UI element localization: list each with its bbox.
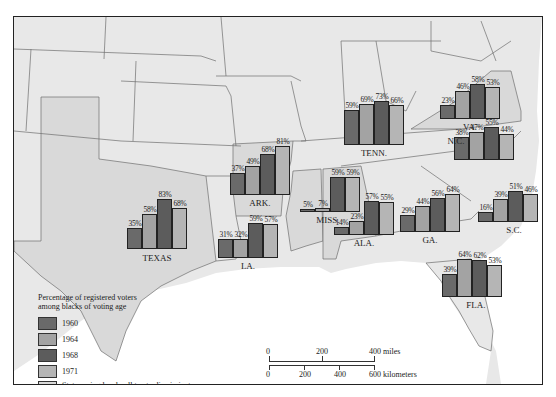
swatch-1964 (38, 333, 57, 346)
bar-1964 (245, 166, 260, 195)
bar-1960 (440, 105, 455, 119)
bar-chart-ala: 14%23%57%55% (334, 175, 394, 235)
bar-chart-tenn: 59%69%73%66% (344, 85, 404, 145)
swatch-1971 (38, 365, 57, 378)
bar-1971 (485, 87, 500, 119)
bar-value-label: 83% (154, 190, 176, 199)
bar-value-label: 57% (260, 215, 282, 224)
bar-1960 (478, 212, 493, 222)
bar-chart-la: 31%32%59%57% (218, 198, 278, 258)
bar-1960 (230, 173, 245, 195)
bar-1964 (415, 206, 430, 232)
bar-1968 (472, 260, 487, 297)
bar-1964 (349, 221, 364, 235)
swatch-1968 (38, 349, 57, 362)
bar-1964 (315, 208, 330, 212)
swatch-1960 (38, 317, 57, 330)
bar-value-label: 55% (376, 193, 398, 202)
bar-1960 (127, 228, 142, 249)
bar-chart-va: 23%46%58%53% (440, 59, 500, 119)
legend-title: Percentage of registered voters among bl… (38, 293, 194, 311)
state-label: ALA. (334, 238, 394, 248)
bar-1971 (523, 194, 538, 222)
state-label: VA. (440, 122, 500, 132)
bar-1960 (442, 274, 457, 297)
bar-1964 (233, 239, 248, 258)
bar-1971 (263, 224, 278, 258)
bar-value-label: 68% (169, 199, 191, 208)
state-label: TEXAS (127, 253, 187, 263)
swatch-poll-tax (38, 381, 57, 385)
bar-value-label: 53% (484, 256, 506, 265)
map-frame: 35%58%83%68%TEXAS37%49%68%81%ARK.31%32%5… (13, 16, 543, 385)
legend-item-1964: 1964 (38, 331, 194, 347)
bar-value-label: 66% (386, 96, 408, 105)
bar-1968 (364, 201, 379, 235)
miles-scale-line (269, 361, 375, 362)
bar-1960 (400, 215, 415, 232)
bar-1964 (359, 104, 374, 145)
bar-chart-fla: 39%64%62%53% (442, 237, 502, 297)
legend-item-poll-tax: States using local poll tax to discrimin… (38, 381, 194, 385)
bar-1960 (300, 209, 315, 212)
bar-1968 (508, 191, 523, 222)
bar-1960 (344, 110, 359, 145)
bar-1964 (493, 199, 508, 222)
bar-1971 (445, 194, 460, 232)
bar-chart-ark: 37%49%68%81% (230, 135, 290, 195)
bar-1960 (218, 239, 233, 258)
bar-1968 (374, 101, 389, 145)
bar-chart-texas: 35%58%83%68% (127, 189, 187, 249)
state-label: N.C. (426, 136, 486, 146)
bar-1971 (389, 105, 404, 145)
bar-value-label: 46% (520, 185, 542, 194)
bar-1960 (334, 227, 349, 235)
state-label: LA. (218, 261, 278, 271)
bar-1968 (260, 154, 275, 195)
bar-1971 (379, 202, 394, 235)
state-label: TENN. (344, 148, 404, 158)
state-label: FLA. (446, 300, 506, 310)
bar-value-label: 64% (442, 185, 464, 194)
bar-chart-sc: 16%39%51%46% (478, 162, 538, 222)
legend-item-1971: 1971 (38, 363, 194, 379)
state-label: S.C. (484, 225, 543, 235)
bar-1964 (142, 214, 157, 249)
legend-item-1968: 1968 (38, 347, 194, 363)
bar-value-label: 53% (482, 78, 504, 87)
bar-1968 (470, 84, 485, 119)
bar-1968 (248, 223, 263, 258)
legend-item-1960: 1960 (38, 315, 194, 331)
bar-1964 (455, 91, 470, 119)
bar-1971 (275, 146, 290, 195)
bar-value-label: 81% (272, 137, 294, 146)
bar-1971 (487, 265, 502, 297)
bar-1964 (457, 259, 472, 297)
bar-1971 (499, 134, 514, 160)
bar-1971 (172, 208, 187, 249)
bar-chart-ga: 29%44%56%64% (400, 172, 460, 232)
km-scale-line (269, 365, 375, 366)
bar-1968 (430, 198, 445, 232)
legend: Percentage of registered voters among bl… (38, 293, 194, 385)
